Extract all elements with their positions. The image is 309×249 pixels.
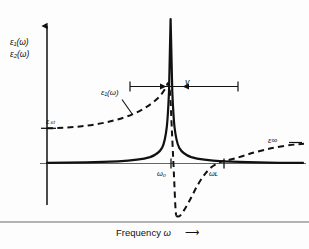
y-axis-label: ε₁(ω) ε₂(ω) [10,38,29,61]
omega-zero-label: ω₀ [157,170,166,178]
x-axis-arrow-icon: ⟶ [185,228,198,238]
eps1-dispersion-curve-lower-branch [176,144,304,217]
gamma-left-arrowhead [160,84,167,90]
x-axis-label: Frequency ω [116,228,171,238]
gamma-linewidth-label: γ [185,78,190,87]
eps-infinity-label: ε∞ [268,137,277,145]
eps1-curve-label: ε₁(ω) [101,89,119,97]
omega-L-label: ωʟ [209,170,218,178]
x-axis-label-text: Frequency [116,227,161,238]
eps1-dispersion-curve [47,83,176,215]
dielectric-function-figure: ε₁(ω) ε₂(ω) ε₁(ω) εₛₜ ε∞ γ ω₀ ωʟ Frequen… [0,0,309,249]
y-axis-label-eps1: ε₁(ω) [10,38,29,47]
eps2-absorption-curve [47,19,303,163]
y-axis-label-eps2: ε₂(ω) [10,50,29,59]
eps-static-label: εₛₜ [46,118,55,126]
eps1-label-leader-line [122,100,133,115]
x-axis-label-symbol: ω [164,227,171,238]
